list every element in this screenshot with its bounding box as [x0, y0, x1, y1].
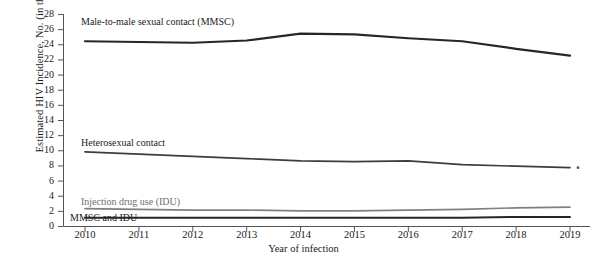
- series-line-0: [85, 34, 570, 56]
- right-end-marker: [577, 166, 580, 169]
- annotation-markers: [577, 166, 580, 169]
- series-paths: [85, 34, 570, 218]
- x-tick-marks: [85, 227, 570, 233]
- series-line-3: [85, 217, 570, 218]
- series-line-2: [85, 207, 570, 211]
- series-line-1: [85, 152, 570, 168]
- hiv-incidence-line-chart: Estimated HIV Incidence, No. (in thousan…: [0, 0, 607, 271]
- plot-area: [0, 0, 607, 271]
- axis-lines: [64, 14, 591, 227]
- y-tick-marks: [58, 15, 64, 227]
